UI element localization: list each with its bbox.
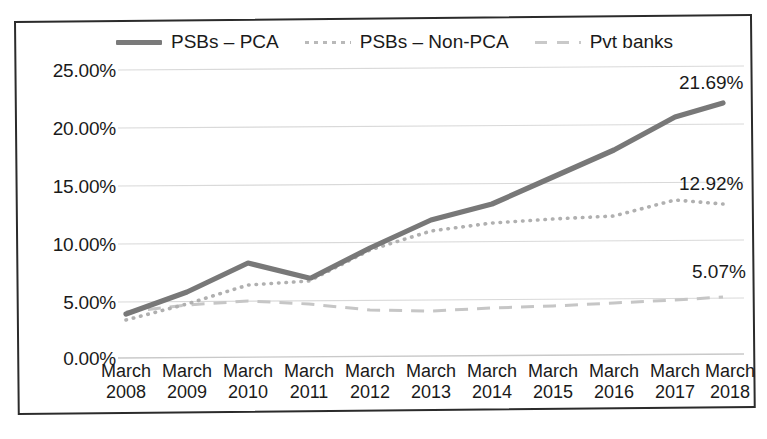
- series-line-psbs-pca: [126, 103, 723, 314]
- legend-item-psbs-pca[interactable]: PSBs – PCA: [116, 31, 279, 53]
- x-tick-month-10: March: [692, 361, 767, 382]
- y-tick-5: 5.00%: [63, 292, 116, 314]
- legend-swatch-dotted-line-icon: [305, 35, 351, 49]
- data-label-psbs-non-pca: 12.92%: [679, 173, 743, 195]
- legend-label-pvt-banks: Pvt banks: [590, 31, 673, 53]
- legend-label-psbs-pca: PSBs – PCA: [171, 31, 279, 53]
- legend-item-psbs-non-pca[interactable]: PSBs – Non-PCA: [305, 31, 509, 53]
- data-label-psbs-pca: 21.69%: [679, 72, 743, 94]
- legend-label-psbs-non-pca: PSBs – Non-PCA: [360, 31, 509, 53]
- y-tick-15: 15.00%: [53, 176, 116, 198]
- figure-root: 25.00% 20.00% 15.00% 10.00% 5.00% 0.00% …: [0, 0, 767, 439]
- legend-swatch-solid-line-icon: [116, 35, 162, 49]
- y-tick-25: 25.00%: [53, 60, 116, 82]
- y-tick-20: 20.00%: [53, 118, 116, 140]
- legend-item-pvt-banks[interactable]: Pvt banks: [535, 31, 673, 53]
- x-tick-year-10: 2018: [692, 382, 767, 403]
- gridlines: [118, 66, 744, 358]
- x-axis-tick-labels: March 2008 March 2009 March 2010 March 2…: [0, 361, 767, 421]
- plot-area: 25.00% 20.00% 15.00% 10.00% 5.00% 0.00% …: [0, 0, 767, 439]
- data-label-pvt-banks: 5.07%: [692, 261, 746, 283]
- legend-swatch-dashed-line-icon: [535, 35, 581, 49]
- y-tick-10: 10.00%: [53, 234, 116, 256]
- chart-legend: PSBs – PCA PSBs – Non-PCA Pvt banks: [116, 29, 699, 55]
- x-tick-10: March 2018: [692, 361, 767, 403]
